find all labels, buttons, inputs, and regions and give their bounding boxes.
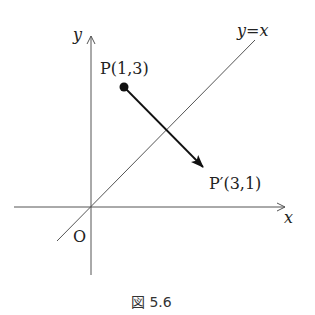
reflection-arrow bbox=[124, 87, 203, 167]
point-p bbox=[120, 83, 129, 92]
line-label: y=x bbox=[236, 21, 268, 40]
figure-caption: 図 5.6 bbox=[131, 294, 172, 310]
line-y-equals-x bbox=[57, 40, 255, 241]
point-p-prime-label: P′(3,1) bbox=[209, 174, 261, 193]
reflection-diagram: y x O y=x P(1,3) P′(3,1) 図 5.6 bbox=[0, 0, 315, 315]
x-axis-label: x bbox=[284, 208, 293, 227]
origin-label: O bbox=[73, 227, 86, 246]
y-axis-label: y bbox=[72, 25, 83, 44]
point-p-label: P(1,3) bbox=[100, 59, 149, 78]
